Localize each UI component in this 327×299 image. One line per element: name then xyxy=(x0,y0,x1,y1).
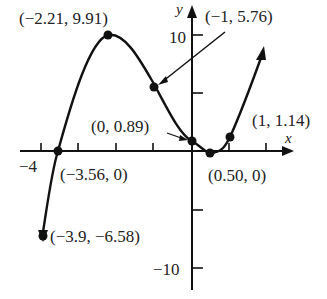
leader-m1-arrow-icon xyxy=(158,76,168,85)
y-axis-arrow-icon xyxy=(187,5,197,18)
point-one xyxy=(226,133,235,142)
point-root1 xyxy=(54,147,63,156)
point-root2 xyxy=(206,149,215,158)
y-axis-label: y xyxy=(174,1,183,17)
label-root2: (0.50, 0) xyxy=(208,166,266,185)
curve-end-arrow-icon xyxy=(256,46,266,60)
label-max: (−2.21, 9.91) xyxy=(19,9,108,28)
label-yint: (0, 0.89) xyxy=(91,117,149,136)
tick-label-neg4: −4 xyxy=(19,157,38,176)
label-m1: (−1, 5.76) xyxy=(205,7,273,26)
tick-label-10: 10 xyxy=(169,28,186,47)
point-low xyxy=(39,232,48,241)
tick-label-neg10: −10 xyxy=(153,260,180,279)
label-one: (1, 1.14) xyxy=(252,111,310,130)
point-m1 xyxy=(150,83,159,92)
point-yint xyxy=(188,137,197,146)
x-axis-label: x xyxy=(284,130,292,146)
function-graph: y x −4 10 −10 (−2.21, 9.91) (−1, 5.76) (… xyxy=(0,0,327,299)
label-low: (−3.9, −6.58) xyxy=(50,227,140,246)
label-root1: (−3.56, 0) xyxy=(60,165,128,184)
x-axis-arrow-icon xyxy=(282,146,294,156)
point-max xyxy=(104,31,113,40)
x-ticks xyxy=(41,143,266,151)
